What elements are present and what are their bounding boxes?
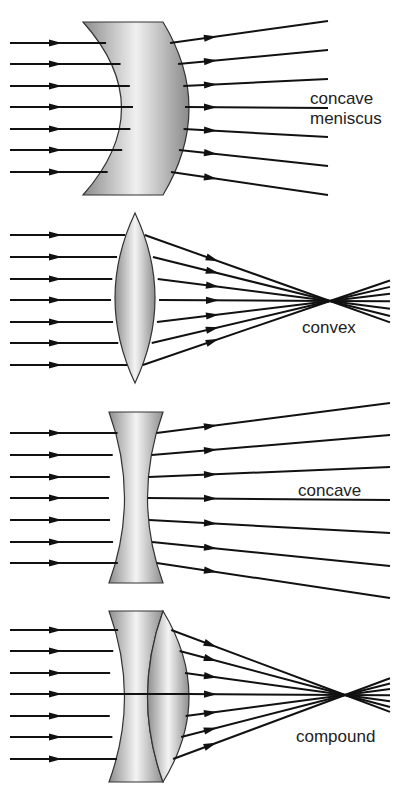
convex-lens: [115, 213, 155, 383]
arrowhead-icon: [49, 125, 62, 132]
arrowhead-icon: [206, 297, 219, 304]
panel-concave: concave: [10, 403, 390, 598]
arrowhead-icon: [49, 39, 62, 46]
arrowhead-icon: [204, 710, 217, 717]
arrowhead-icon: [204, 81, 217, 88]
label-concave-meniscus-line1: concave: [310, 89, 373, 108]
arrowhead-icon: [49, 361, 62, 368]
converging-ray: [145, 235, 330, 301]
arrowhead-icon: [49, 690, 62, 697]
arrowhead-icon: [49, 318, 62, 325]
outgoing-ray: [149, 467, 390, 477]
arrowhead-icon: [49, 559, 62, 566]
arrowhead-icon: [49, 626, 62, 633]
label-concave-meniscus-line2: meniscus: [310, 109, 382, 128]
panel-concave-meniscus: concave meniscus: [10, 21, 382, 195]
label-concave: concave: [298, 481, 361, 500]
arrowhead-icon: [49, 516, 62, 523]
arrowhead-icon: [49, 82, 62, 89]
arrowhead-icon: [205, 339, 218, 347]
outgoing-ray: [157, 403, 390, 433]
outgoing-ray: [152, 542, 390, 566]
converging-ray: [159, 300, 330, 301]
arrowhead-icon: [49, 647, 62, 654]
arrowhead-icon: [49, 451, 62, 458]
arrowhead-icon: [49, 429, 62, 436]
rays-concave: [10, 403, 390, 598]
label-convex: convex: [302, 318, 356, 337]
arrowhead-icon: [49, 231, 62, 238]
outgoing-ray: [152, 435, 390, 455]
outgoing-ray: [178, 50, 328, 64]
arrowhead-icon: [204, 495, 217, 502]
outgoing-ray: [149, 520, 390, 533]
concave-meniscus-lens: [83, 22, 189, 195]
panel-compound: compound: [10, 611, 390, 782]
rays-convex: [10, 231, 390, 368]
arrowhead-icon: [205, 254, 218, 262]
arrowhead-icon: [204, 544, 217, 551]
arrowhead-icon: [49, 253, 62, 260]
arrowhead-icon: [49, 103, 62, 110]
arrowhead-icon: [49, 755, 62, 762]
arrowhead-icon: [49, 712, 62, 719]
converging-ray: [171, 630, 345, 695]
arrowhead-icon: [49, 168, 62, 175]
arrowhead-icon: [49, 473, 62, 480]
arrowhead-icon: [203, 654, 216, 661]
arrowhead-icon: [204, 690, 217, 697]
arrowhead-icon: [49, 538, 62, 545]
arrowhead-icon: [205, 327, 218, 334]
converging-ray: [153, 257, 330, 301]
outgoing-ray: [171, 172, 328, 195]
outgoing-ray: [170, 21, 328, 43]
arrowhead-icon: [204, 471, 217, 478]
arrowhead-icon: [204, 423, 217, 430]
arrowhead-icon: [206, 282, 219, 289]
outgoing-ray: [179, 150, 328, 166]
arrowhead-icon: [49, 275, 62, 282]
arrowhead-icon: [203, 743, 216, 751]
arrowhead-icon: [49, 339, 62, 346]
arrowhead-icon: [49, 494, 62, 501]
arrowhead-icon: [204, 104, 217, 111]
arrowhead-icon: [49, 146, 62, 153]
outgoing-ray: [157, 563, 390, 598]
arrowhead-icon: [206, 312, 219, 319]
arrowhead-icon: [204, 149, 217, 156]
arrowhead-icon: [203, 639, 216, 647]
arrowhead-icon: [49, 60, 62, 67]
arrowhead-icon: [49, 733, 62, 740]
label-compound: compound: [296, 727, 375, 746]
arrowhead-icon: [204, 58, 217, 65]
arrowhead-icon: [49, 669, 62, 676]
arrowhead-icon: [205, 267, 218, 274]
lens-diagram: concave meniscus convex concave compound: [0, 0, 405, 793]
panel-convex: convex: [10, 213, 390, 383]
converging-ray: [158, 279, 330, 301]
arrowhead-icon: [203, 728, 216, 735]
arrowhead-icon: [49, 296, 62, 303]
